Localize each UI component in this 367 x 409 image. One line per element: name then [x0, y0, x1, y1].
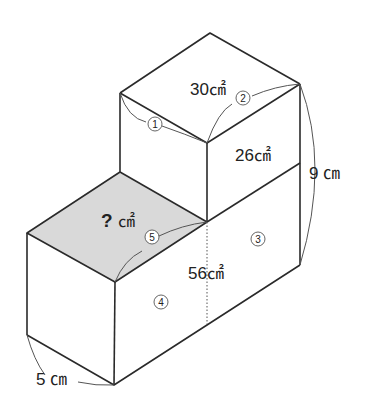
- label-top-area: 30㎠: [190, 80, 226, 99]
- solid-diagram: 1 2 3 4 5 30㎠ 26㎠ 56㎠ ? ㎠ 9 ㎝ 5 ㎝: [0, 0, 367, 409]
- label-lower-right-area: 56㎠: [188, 264, 224, 283]
- marker-5: 5: [145, 230, 159, 244]
- label-upper-right-area: 26㎠: [235, 146, 271, 165]
- label-height: 9 ㎝: [309, 164, 340, 183]
- label-depth: 5 ㎝: [36, 370, 67, 389]
- svg-text:3: 3: [255, 234, 261, 245]
- marker-2: 2: [236, 91, 250, 105]
- marker-1: 1: [148, 117, 162, 131]
- svg-text:5: 5: [149, 232, 155, 243]
- marker-4: 4: [154, 295, 168, 309]
- svg-text:1: 1: [152, 119, 158, 130]
- marker-3: 3: [251, 232, 265, 246]
- svg-text:2: 2: [240, 93, 246, 104]
- svg-text:4: 4: [158, 297, 164, 308]
- label-unknown-q: ?: [101, 210, 113, 231]
- label-unknown-unit: ㎠: [118, 212, 135, 231]
